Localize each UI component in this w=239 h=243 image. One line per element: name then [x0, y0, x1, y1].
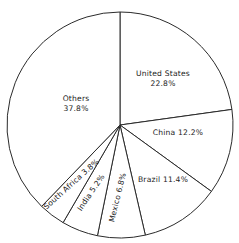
pie-slice-label-brazil: Brazil 11.4% — [138, 175, 188, 184]
pie-slice-label-line1-united-states: United States — [136, 69, 190, 78]
pie-chart-canvas: United States22.8%China 12.2%Brazil 11.4… — [0, 0, 239, 243]
pie-slice-label-line2-united-states: 22.8% — [150, 79, 175, 88]
pie-slice-label-line2-others: 37.8% — [63, 104, 88, 113]
pie-slice-label-line1-china: China 12.2% — [153, 128, 203, 137]
pie-chart-figure: United States22.8%China 12.2%Brazil 11.4… — [0, 0, 239, 243]
pie-slice-label-others: Others37.8% — [63, 94, 90, 113]
pie-slice-label-china: China 12.2% — [153, 128, 203, 137]
pie-slice-label-line1-brazil: Brazil 11.4% — [138, 175, 188, 184]
pie-slice-label-line1-others: Others — [63, 94, 90, 103]
